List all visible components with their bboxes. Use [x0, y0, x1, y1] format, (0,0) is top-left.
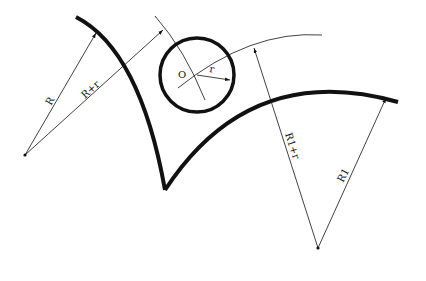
label-R1-plus-r: R1+r [283, 131, 302, 160]
radius-r-line [197, 75, 230, 80]
arc-R1-plus-r [178, 35, 322, 88]
geometry-diagram: R R+r O r R1+r R1 [0, 0, 426, 281]
arc-R [76, 17, 165, 190]
label-O: O [178, 69, 186, 80]
label-R-plus-r: R+r [79, 78, 102, 100]
radius-R1-plus-r-line [254, 48, 318, 248]
label-r: r [209, 63, 216, 75]
label-R1: R1 [335, 166, 351, 183]
label-R: R [43, 95, 57, 107]
arc-R1 [165, 92, 398, 190]
diagram-canvas: R R+r O r R1+r R1 [0, 0, 426, 281]
radius-R1-line [318, 98, 386, 248]
